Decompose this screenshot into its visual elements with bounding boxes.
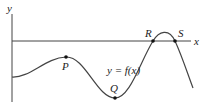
point-r-label: R — [144, 27, 152, 39]
point-q-label: Q — [110, 82, 118, 94]
point-p-marker — [64, 55, 68, 59]
x-axis-label: x — [193, 35, 199, 47]
function-graph-diagram: y x P Q R S y = f(x) — [0, 0, 204, 109]
point-p-label: P — [61, 60, 69, 72]
point-q-marker — [113, 96, 117, 100]
point-s-marker — [173, 39, 177, 43]
point-s-label: S — [178, 27, 184, 39]
function-curve — [12, 32, 193, 98]
y-axis-label: y — [6, 2, 12, 14]
curve-equation-label: y = f(x) — [106, 64, 140, 77]
point-r-marker — [151, 39, 155, 43]
graph-svg: y x P Q R S y = f(x) — [0, 0, 204, 109]
